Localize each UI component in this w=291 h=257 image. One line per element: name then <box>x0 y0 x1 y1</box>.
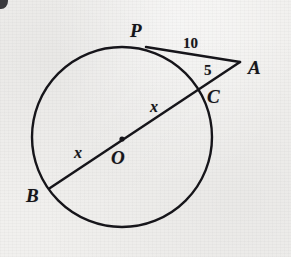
point-label-a: A <box>248 58 261 77</box>
point-label-b: B <box>26 186 39 205</box>
point-label-p: P <box>130 21 142 40</box>
geometry-figure <box>0 0 291 257</box>
measure-label-x-upper: x <box>150 99 158 115</box>
measure-label-10: 10 <box>183 36 198 51</box>
point-label-c: C <box>207 87 220 106</box>
center-point-o <box>119 136 124 141</box>
measure-label-x-lower: x <box>74 145 82 161</box>
center-label-o: O <box>111 148 125 167</box>
measure-label-5: 5 <box>204 63 212 78</box>
figure-canvas: P A C B O 10 5 x x <box>0 0 291 257</box>
